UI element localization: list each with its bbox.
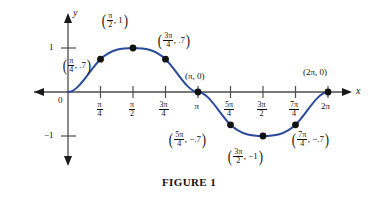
point-label-pi-zero: (π, 0) <box>185 72 205 81</box>
figure-caption: FIGURE 1 <box>0 176 378 188</box>
x-tick-label-5pi-over-4: 5π 4 <box>224 101 235 119</box>
y-value: −1 <box>248 152 258 161</box>
point-label-pi-over-2: ( π 2 , 1 ) <box>101 12 128 30</box>
fraction: 3π 4 <box>159 101 169 119</box>
fraction: 5π 4 <box>174 131 184 149</box>
y-axis <box>64 13 72 166</box>
x-tick-label-pi-over-2: π 2 <box>129 101 136 119</box>
x-axis-label: x <box>356 86 360 96</box>
x-axis <box>34 88 352 96</box>
coordinate-pair: ( 3π 4 , .7 ) <box>157 32 191 50</box>
y-axis-label: y <box>73 8 77 18</box>
y-value: −.7 <box>189 135 201 144</box>
coordinate-pair: ( 3π 2 , −1 ) <box>227 148 263 166</box>
left-paren: ( <box>102 14 106 28</box>
left-paren: ( <box>169 133 173 147</box>
right-paren: ) <box>325 133 329 147</box>
right-paren: ) <box>87 59 91 73</box>
data-point <box>162 56 169 63</box>
fraction: π 2 <box>129 101 135 119</box>
data-point <box>292 121 299 128</box>
y-value: 1 <box>118 16 123 25</box>
fraction: 7π 4 <box>289 101 299 119</box>
coordinate-pair: ( 5π 4 , −.7 ) <box>168 131 207 149</box>
fraction: 3π 2 <box>257 101 267 119</box>
point-label-5pi-over-4: ( 5π 4 , −.7 ) <box>168 131 207 149</box>
coordinate-pair: ( 7π 4 , −.7 ) <box>291 131 330 149</box>
coordinate-pair: ( π 2 , 1 ) <box>101 12 128 30</box>
figure-container: y x 0 1 −1 π 4 π 2 3π 4 π 5π 4 3π 2 <box>0 0 378 200</box>
data-point <box>130 45 137 52</box>
fraction: 7π 4 <box>297 131 307 149</box>
x-tick-label-3pi-over-2: 3π 2 <box>256 101 267 119</box>
left-paren: ( <box>228 150 232 164</box>
point-label-3pi-over-2: ( 3π 2 , −1 ) <box>227 148 263 166</box>
x-tick-label-7pi-over-4: 7π 4 <box>289 101 300 119</box>
y-value: .7 <box>178 36 185 45</box>
point-label-pi-over-4: ( π 4 , .7 ) <box>62 57 92 75</box>
point-label-7pi-over-4: ( 7π 4 , −.7 ) <box>291 131 330 149</box>
right-paren: ) <box>259 150 263 164</box>
fraction: 3π 4 <box>163 32 173 50</box>
right-paren: ) <box>186 34 190 48</box>
x-tick-label-pi: π <box>195 102 200 111</box>
data-point <box>325 89 332 96</box>
y-value: −.7 <box>312 135 324 144</box>
data-point <box>97 56 104 63</box>
sine-graph-svg <box>0 0 378 200</box>
left-paren: ( <box>158 34 162 48</box>
fraction: 5π 4 <box>224 101 234 119</box>
fraction: 3π 2 <box>233 148 243 166</box>
point-label-2pi-zero: (2π, 0) <box>303 68 327 77</box>
y-value: .7 <box>79 61 86 70</box>
left-paren: ( <box>292 133 296 147</box>
y-tick-label-neg1: −1 <box>44 131 54 140</box>
data-point <box>195 89 202 96</box>
x-tick-label-2pi: 2π <box>321 102 330 111</box>
x-tick-label-pi-over-4: π 4 <box>96 101 103 119</box>
right-paren: ) <box>202 133 206 147</box>
right-paren: ) <box>123 14 127 28</box>
data-point <box>260 133 267 140</box>
fraction: π 4 <box>97 101 103 119</box>
origin-label: 0 <box>58 96 63 105</box>
point-label-3pi-over-4: ( 3π 4 , .7 ) <box>157 32 191 50</box>
coordinate-pair: ( π 4 , .7 ) <box>62 57 92 75</box>
data-point <box>227 121 234 128</box>
left-paren: ( <box>63 59 67 73</box>
x-tick-label-3pi-over-4: 3π 4 <box>158 101 169 119</box>
y-tick-label-1: 1 <box>49 43 54 52</box>
fraction: π 4 <box>68 57 74 75</box>
fraction: π 2 <box>107 12 113 30</box>
